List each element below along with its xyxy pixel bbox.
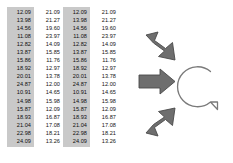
table-cell: 18.21 xyxy=(39,129,60,137)
table-cell: 11.08 xyxy=(10,32,31,40)
table-cell: 18.93 xyxy=(10,113,31,121)
column-plain: 21.0921.2719.6023.9714.0915.8511.7612.97… xyxy=(34,7,62,147)
table-cell: 23.97 xyxy=(39,32,60,40)
table-cell: 12.97 xyxy=(95,64,116,72)
table-cell: 13.78 xyxy=(95,72,116,80)
table-cell: 13.78 xyxy=(39,72,60,80)
table-cell: 19.60 xyxy=(95,24,116,32)
table-cell: 14.56 xyxy=(10,24,31,32)
column-highlighted: 12.0913.9814.5611.0812.8213.8715.8618.92… xyxy=(7,7,34,147)
data-table-right: 12.0913.9814.5611.0812.8213.8715.8618.92… xyxy=(63,7,118,147)
table-cell: 15.86 xyxy=(10,56,31,64)
arrow-diagonal-down-right-icon xyxy=(146,32,175,60)
table-cell: 14.09 xyxy=(39,40,60,48)
table-cell: 24.87 xyxy=(10,80,31,88)
table-cell: 18.93 xyxy=(66,113,87,121)
table-cell: 14.65 xyxy=(39,88,60,96)
table-cell: 14.98 xyxy=(10,97,31,105)
table-cell: 12.82 xyxy=(10,40,31,48)
column-plain: 21.0921.2719.6023.9714.0915.8511.7612.97… xyxy=(90,7,118,147)
table-cell: 20.01 xyxy=(66,72,87,80)
table-cell: 12.09 xyxy=(10,8,31,16)
table-cell: 11.08 xyxy=(66,32,87,40)
speech-bubble-icon xyxy=(178,67,218,110)
table-cell: 14.09 xyxy=(95,40,116,48)
table-cell: 24.09 xyxy=(10,137,31,145)
table-cell: 17.08 xyxy=(39,121,60,129)
table-cell: 21.09 xyxy=(39,8,60,16)
table-cell: 12.09 xyxy=(66,8,87,16)
table-cell: 16.87 xyxy=(95,113,116,121)
table-cell: 12.97 xyxy=(39,64,60,72)
flow-graphics xyxy=(120,0,233,163)
table-cell: 21.27 xyxy=(95,16,116,24)
table-cell: 15.87 xyxy=(10,105,31,113)
table-cell: 15.87 xyxy=(66,105,87,113)
table-cell: 13.98 xyxy=(66,16,87,24)
table-cell: 17.08 xyxy=(95,121,116,129)
table-cell: 10.91 xyxy=(66,88,87,96)
table-cell: 13.26 xyxy=(95,137,116,145)
table-cell: 13.87 xyxy=(10,48,31,56)
data-table-left: 12.0913.9814.5611.0812.8213.8715.8618.92… xyxy=(7,7,62,147)
table-cell: 21.04 xyxy=(10,121,31,129)
table-cell: 15.98 xyxy=(39,97,60,105)
table-cell: 14.56 xyxy=(66,24,87,32)
table-cell: 11.76 xyxy=(95,56,116,64)
table-cell: 20.01 xyxy=(10,72,31,80)
table-cell: 12.09 xyxy=(39,105,60,113)
table-cell: 24.09 xyxy=(66,137,87,145)
table-cell: 18.92 xyxy=(10,64,31,72)
table-cell: 14.65 xyxy=(95,88,116,96)
table-cell: 12.09 xyxy=(95,105,116,113)
table-cell: 21.04 xyxy=(66,121,87,129)
table-cell: 15.85 xyxy=(39,48,60,56)
table-cell: 11.76 xyxy=(39,56,60,64)
table-cell: 14.98 xyxy=(66,97,87,105)
table-cell: 12.82 xyxy=(66,40,87,48)
table-cell: 13.26 xyxy=(39,137,60,145)
table-cell: 22.98 xyxy=(66,129,87,137)
diagram-canvas: 12.0913.9814.5611.0812.8213.8715.8618.92… xyxy=(0,0,233,163)
table-cell: 16.87 xyxy=(39,113,60,121)
table-cell: 21.09 xyxy=(95,8,116,16)
table-cell: 13.98 xyxy=(10,16,31,24)
table-cell: 12.00 xyxy=(39,80,60,88)
table-cell: 13.87 xyxy=(66,48,87,56)
arrow-diagonal-up-right-icon xyxy=(146,108,175,136)
column-highlighted: 12.0913.9814.5611.0812.8213.8715.8618.92… xyxy=(63,7,90,147)
table-cell: 12.00 xyxy=(95,80,116,88)
table-cell: 15.85 xyxy=(95,48,116,56)
arrow-right-icon xyxy=(139,69,175,94)
table-cell: 24.87 xyxy=(66,80,87,88)
table-cell: 18.21 xyxy=(95,129,116,137)
table-cell: 21.27 xyxy=(39,16,60,24)
table-cell: 22.98 xyxy=(10,129,31,137)
table-cell: 23.97 xyxy=(95,32,116,40)
table-cell: 15.98 xyxy=(95,97,116,105)
table-cell: 19.60 xyxy=(39,24,60,32)
table-cell: 10.91 xyxy=(10,88,31,96)
table-cell: 18.92 xyxy=(66,64,87,72)
table-cell: 15.86 xyxy=(66,56,87,64)
